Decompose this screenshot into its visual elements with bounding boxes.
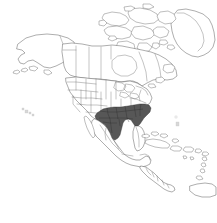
map-canvas	[0, 0, 217, 223]
north-america-map-figure	[0, 0, 217, 223]
